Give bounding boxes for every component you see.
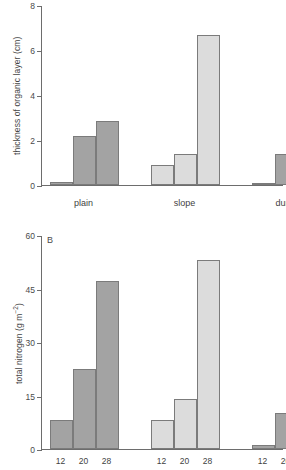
x-axis-tick-label: 12 [56, 456, 65, 466]
panel-b-y-axis-label-prefix: total nitrogen (g m [14, 313, 24, 383]
panel-a-plot-area: 02468 [41, 6, 283, 186]
y-axis-tick [37, 290, 42, 291]
bar-dune-20 [275, 413, 286, 449]
bar-plain-28 [96, 281, 119, 449]
bar-slope-12 [151, 165, 174, 185]
bar-plain-12 [50, 182, 73, 185]
bar-dune-12 [252, 183, 275, 185]
bar-plain-20 [73, 369, 96, 449]
y-axis-tick-label: 6 [30, 46, 35, 56]
y-axis-tick-label: 30 [26, 338, 35, 348]
x-axis-tick-label: 20 [281, 456, 286, 466]
x-axis-tick-label: 28 [203, 456, 212, 466]
group-label-dune: dune [275, 198, 286, 208]
bar-dune-20 [275, 154, 286, 186]
bar-plain-20 [73, 136, 96, 186]
y-axis-tick-label: 2 [30, 136, 35, 146]
y-axis-tick-label: 45 [26, 285, 35, 295]
bar-slope-28 [197, 260, 220, 449]
panel-a: thickness of organic layer (cm) 02468 pl… [0, 0, 286, 228]
y-axis-tick [37, 96, 42, 97]
y-axis-tick-label: 0 [30, 445, 35, 455]
group-label-plain: plain [74, 198, 93, 208]
y-axis-tick-label: 0 [30, 181, 35, 191]
x-axis-tick-label: 20 [79, 456, 88, 466]
y-axis-tick-label: 15 [26, 392, 35, 402]
y-axis-tick [37, 186, 42, 187]
y-axis-tick [37, 397, 42, 398]
x-axis-tick-label: 20 [180, 456, 189, 466]
bar-dune-12 [252, 445, 275, 449]
x-axis-tick-label: 28 [102, 456, 111, 466]
y-axis-tick-label: 60 [26, 231, 35, 241]
x-axis-tick-label: 12 [258, 456, 267, 466]
panel-b-y-axis-label-exponent: −2 [12, 305, 19, 313]
group-label-slope: slope [174, 198, 196, 208]
panel-b: B total nitrogen (g m−2) 015304560 12202… [0, 228, 286, 470]
panel-a-y-axis-label: thickness of organic layer (cm) [12, 37, 22, 155]
panel-b-y-axis-label: total nitrogen (g m−2) [12, 303, 24, 384]
panel-b-y-axis-label-suffix: ) [14, 303, 24, 306]
y-axis-tick-label: 8 [30, 1, 35, 11]
bar-slope-28 [197, 35, 220, 185]
y-axis-tick [37, 51, 42, 52]
bar-slope-20 [174, 154, 197, 186]
bar-plain-28 [96, 121, 119, 185]
y-axis-tick-label: 4 [30, 91, 35, 101]
figure-container: thickness of organic layer (cm) 02468 pl… [0, 0, 286, 470]
bar-slope-12 [151, 420, 174, 449]
y-axis-tick [37, 236, 42, 237]
y-axis-tick [37, 343, 42, 344]
y-axis-tick [37, 141, 42, 142]
panel-b-plot-area: 015304560 [41, 236, 283, 450]
y-axis-tick [37, 450, 42, 451]
bar-plain-12 [50, 420, 73, 449]
y-axis-tick [37, 6, 42, 7]
x-axis-tick-label: 12 [157, 456, 166, 466]
bar-slope-20 [174, 399, 197, 449]
